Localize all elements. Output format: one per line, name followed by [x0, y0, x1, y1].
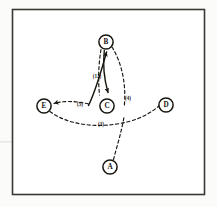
node-c[interactable]: C — [100, 99, 114, 113]
node-b-label: B — [104, 38, 109, 46]
node-c-label: C — [104, 102, 109, 110]
node-a[interactable]: A — [103, 160, 117, 174]
edge-label-b-c: (12) — [93, 73, 102, 80]
node-a-label: A — [107, 163, 113, 171]
node-e[interactable]: E — [37, 99, 51, 113]
node-e-label: E — [42, 102, 47, 110]
node-d[interactable]: D — [159, 98, 173, 112]
node-d-label: D — [163, 101, 168, 109]
node-b[interactable]: B — [99, 35, 113, 49]
edge-label-b-d: (4) — [125, 95, 131, 102]
edge-label-e-d: (3) — [98, 121, 104, 128]
edge-label-e-c: (5) — [77, 101, 83, 108]
graph-diagram: B C E D A (12) (4) (5) (3) — [0, 0, 217, 207]
scan-artifact-line — [0, 141, 13, 143]
figure-canvas: B C E D A (12) (4) (5) (3) — [0, 0, 217, 207]
